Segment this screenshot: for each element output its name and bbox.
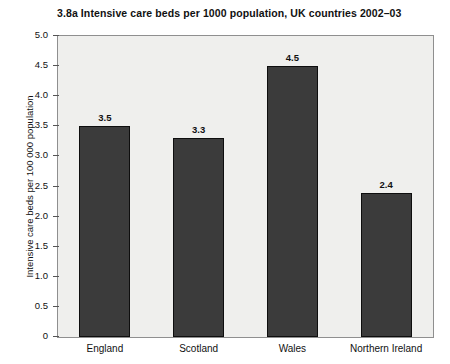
- x-axis-category-label: Scotland: [152, 343, 246, 354]
- y-axis-tick-mark: [53, 65, 59, 66]
- bar-value-label: 4.5: [286, 52, 299, 63]
- y-axis-tick-label: 1.5: [35, 240, 48, 251]
- bar-group[interactable]: 3.3: [173, 36, 224, 337]
- y-axis-tick-mark: [53, 95, 59, 96]
- x-axis-category-label: Wales: [246, 343, 340, 354]
- chart-figure: 3.8a Intensive care beds per 1000 popula…: [0, 0, 450, 364]
- x-axis-category-label: Northern Ireland: [339, 343, 433, 354]
- y-axis-tick-mark: [53, 276, 59, 277]
- y-axis-title: Intensive care beds per 100 000 populati…: [24, 72, 35, 302]
- y-axis-tick-mark: [53, 336, 59, 337]
- y-axis-tick-label: 3.5: [35, 119, 48, 130]
- y-axis-tick-mark: [53, 186, 59, 187]
- y-axis-tick-label: 3.0: [35, 149, 48, 160]
- y-axis-tick-label: 1.0: [35, 270, 48, 281]
- y-axis-tick-mark: [53, 306, 59, 307]
- bar[interactable]: [361, 193, 412, 337]
- chart-title: 3.8a Intensive care beds per 1000 popula…: [57, 7, 402, 19]
- bar-group[interactable]: 2.4: [361, 36, 412, 337]
- bar[interactable]: [267, 66, 318, 337]
- y-axis-tick-mark: [53, 155, 59, 156]
- bar-group[interactable]: 3.5: [79, 36, 130, 337]
- y-axis-tick-label: 0: [43, 330, 48, 341]
- bar-group[interactable]: 4.5: [267, 36, 318, 337]
- x-axis-category-label: England: [58, 343, 152, 354]
- y-axis-tick-label: 0.5: [35, 300, 48, 311]
- y-axis-tick-mark: [53, 125, 59, 126]
- y-axis-tick-label: 4.5: [35, 59, 48, 70]
- plot-inner: 00.51.01.52.02.53.03.54.04.55.03.53.34.5…: [58, 36, 433, 337]
- bar[interactable]: [173, 138, 224, 337]
- bar[interactable]: [79, 126, 130, 337]
- y-axis-tick-label: 2.5: [35, 180, 48, 191]
- y-axis-tick-mark: [53, 246, 59, 247]
- y-axis-tick-label: 4.0: [35, 89, 48, 100]
- bar-value-label: 3.3: [192, 124, 205, 135]
- bar-value-label: 3.5: [98, 112, 111, 123]
- y-axis-tick-label: 2.0: [35, 210, 48, 221]
- bar-value-label: 2.4: [380, 179, 393, 190]
- y-axis-tick-mark: [53, 216, 59, 217]
- plot-area: 00.51.01.52.02.53.03.54.04.55.03.53.34.5…: [57, 35, 434, 338]
- y-axis-tick-label: 5.0: [35, 29, 48, 40]
- y-axis-tick-mark: [53, 35, 59, 36]
